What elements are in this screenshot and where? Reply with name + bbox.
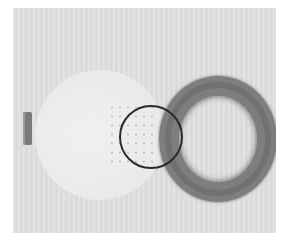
highlight-circle (119, 105, 183, 169)
rectangular-tab (23, 112, 32, 145)
photo (13, 8, 276, 233)
